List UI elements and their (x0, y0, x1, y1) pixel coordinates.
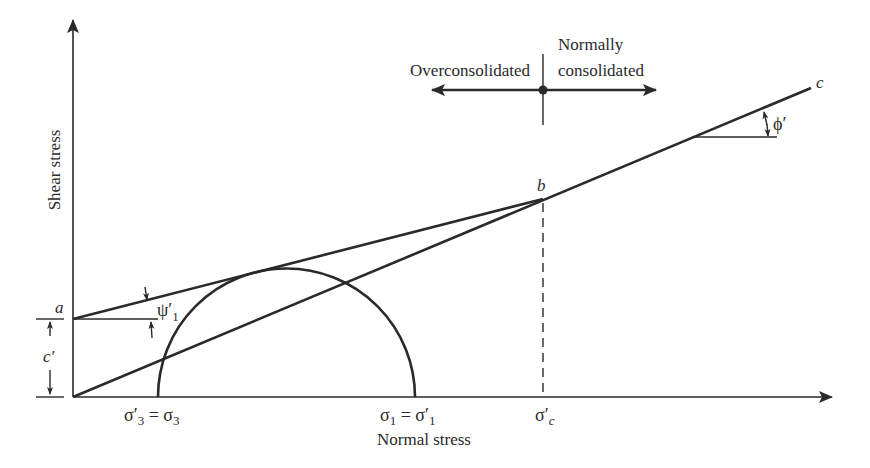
psi-arrow-bottom (151, 322, 152, 338)
normally-label-line2: consolidated (558, 61, 644, 80)
psi-arrow-top (145, 287, 147, 300)
overconsolidated-label: Overconsolidated (410, 61, 530, 80)
sigma3-label: σ′3 = σ3 (124, 405, 180, 428)
consolidation-dot (539, 86, 548, 95)
point-c-label: c (816, 73, 824, 92)
phi-arrow-down (767, 124, 768, 136)
psi-angle-label: ψ′1 (157, 300, 179, 324)
overconsolidated-envelope (73, 199, 543, 319)
sigma-c-label: σ′c (535, 405, 555, 428)
point-b-label: b (537, 176, 546, 195)
normally-consolidated-envelope (73, 88, 811, 397)
normally-label-line1: Normally (558, 35, 624, 54)
point-a-label: a (55, 298, 64, 317)
sigma1-label: σ1 = σ′1 (380, 405, 436, 428)
x-axis-label: Normal stress (377, 430, 471, 449)
y-axis-label: Shear stress (45, 130, 64, 211)
cohesion-label: c′ (43, 347, 55, 366)
phi-arrow-up (764, 112, 767, 125)
failure-envelope-diagram: Shear stress Normal stress a b c c′ ψ′1 … (0, 0, 870, 468)
phi-angle-label: ϕ′ (773, 114, 786, 134)
